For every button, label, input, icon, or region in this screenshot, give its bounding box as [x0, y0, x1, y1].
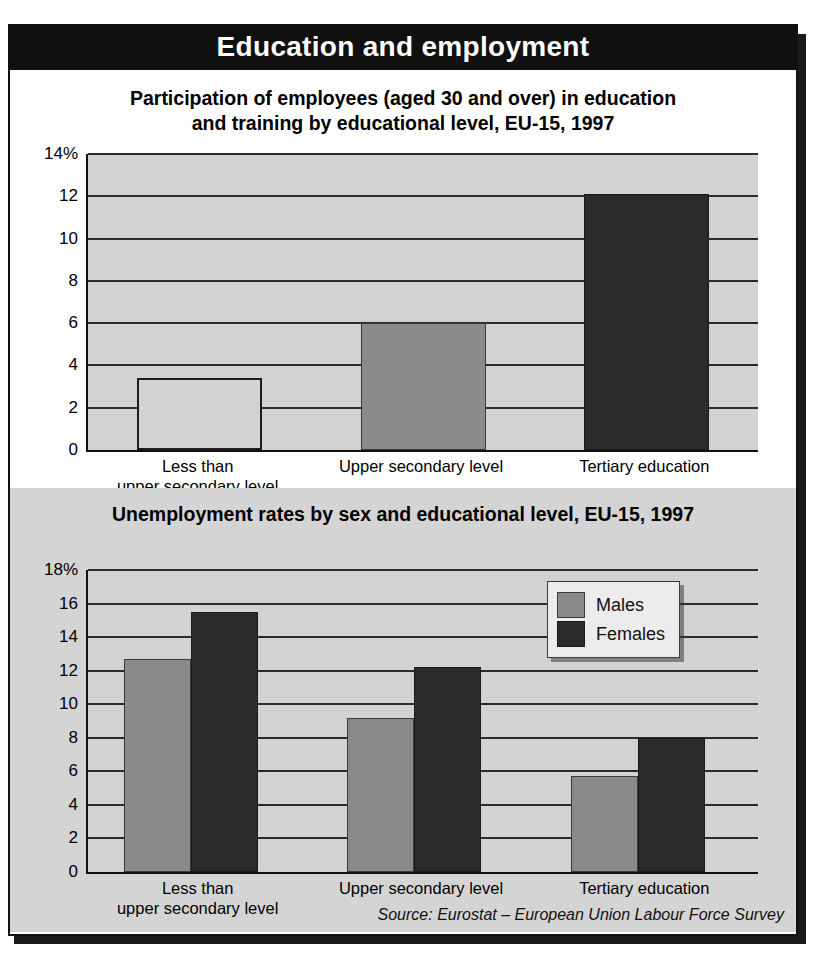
chart2-legend: MalesFemales	[547, 581, 680, 658]
y-tick-label: 6	[69, 762, 78, 779]
x-label-line1: Tertiary education	[533, 456, 756, 476]
x-label-line1: Less than	[86, 456, 309, 476]
chart2-title: Unemployment rates by sex and educationa…	[30, 502, 776, 526]
figure-page: Education and employment Participation o…	[0, 0, 836, 967]
legend-swatch-females	[557, 621, 585, 647]
legend-row: Females	[557, 621, 665, 647]
y-tick-label: 16	[59, 595, 78, 612]
bar-females-1	[414, 667, 481, 872]
chart1-title-line1: Participation of employees (aged 30 and …	[40, 86, 766, 111]
y-tick-label: 0	[69, 863, 78, 880]
bar-males-0	[124, 659, 191, 872]
x-category-label: Upper secondary level	[309, 456, 532, 476]
chart1-title-line2: and training by educational level, EU-15…	[40, 111, 766, 136]
x-label-line1: Upper secondary level	[309, 878, 532, 898]
bar-category-1	[361, 323, 486, 450]
bar-females-2	[638, 738, 705, 872]
y-tick-label: 10	[59, 230, 78, 247]
bar-females-0	[191, 612, 258, 872]
chart1-plot-area	[86, 154, 758, 452]
y-tick-label: 8	[69, 729, 78, 746]
y-tick-label: 14	[59, 628, 78, 645]
legend-label-females: Females	[596, 624, 665, 645]
chart-unemployment: Unemployment rates by sex and educationa…	[10, 488, 796, 932]
x-category-label: Less thanupper secondary level	[86, 878, 309, 918]
banner-title: Education and employment	[217, 31, 590, 63]
gridline	[88, 569, 758, 571]
y-tick-label: 6	[69, 314, 78, 331]
legend-swatch-males	[557, 592, 585, 618]
y-tick-label: 0	[69, 441, 78, 458]
y-tick-label: 2	[69, 829, 78, 846]
x-category-label: Upper secondary level	[309, 878, 532, 898]
chart-participation: Participation of employees (aged 30 and …	[10, 72, 796, 488]
y-tick-label: 4	[69, 796, 78, 813]
chart1-title: Participation of employees (aged 30 and …	[40, 86, 766, 136]
banner: Education and employment	[8, 24, 798, 70]
x-category-label: Tertiary education	[533, 878, 756, 898]
y-tick-label: 12	[59, 187, 78, 204]
y-tick-label: 2	[69, 399, 78, 416]
bar-males-2	[571, 776, 638, 872]
source-note: Source: Eurostat – European Union Labour…	[378, 906, 784, 924]
x-label-line1: Tertiary education	[533, 878, 756, 898]
bar-males-1	[347, 718, 414, 872]
y-tick-label: 4	[69, 356, 78, 373]
bar-category-2	[584, 194, 709, 450]
gridline	[88, 153, 758, 155]
x-label-line1: Less than	[86, 878, 309, 898]
legend-label-males: Males	[596, 595, 644, 616]
y-tick-label: 12	[59, 662, 78, 679]
y-tick-label: 8	[69, 272, 78, 289]
x-label-line2: upper secondary level	[86, 898, 309, 918]
x-label-line1: Upper secondary level	[309, 456, 532, 476]
y-tick-label: 10	[59, 695, 78, 712]
y-tick-label: 18%	[44, 561, 78, 578]
x-category-label: Tertiary education	[533, 456, 756, 476]
y-tick-label: 14%	[44, 145, 78, 162]
legend-row: Males	[557, 592, 665, 618]
bar-category-0	[137, 378, 262, 450]
